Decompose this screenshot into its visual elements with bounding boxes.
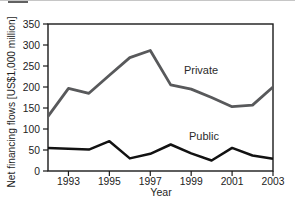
y-axis-tick-label: 100 [23,124,40,135]
y-axis-tick-label: 350 [23,19,40,30]
x-axis-tick-label: 2001 [221,176,244,187]
x-axis-title: Year [150,186,171,198]
y-axis-tick-label: 0 [34,166,40,177]
private-series-label: Private [184,64,218,76]
x-axis-tick-label: 1995 [98,176,121,187]
private-line [48,51,273,117]
y-axis-tick-label: 50 [29,145,41,156]
y-axis-tick-label: 250 [23,61,40,72]
y-axis-tick-label: 150 [23,103,40,114]
y-axis-tick-label: 300 [23,40,40,51]
y-axis-tick-label: 200 [23,82,40,93]
x-axis-tick-label: 2003 [262,176,285,187]
y-axis-title: Net financing flows [US$1,000 million] [6,16,17,187]
net-financing-flows-figure: 0501001502002503003501993199519971999200… [0,0,295,204]
public-series-label: Public [189,130,219,142]
public-line [48,141,273,160]
x-axis-tick-label: 1999 [180,176,203,187]
x-axis-tick-label: 1993 [57,176,80,187]
x-axis-tick-label: 1997 [139,176,162,187]
chart-canvas: 0501001502002503003501993199519971999200… [0,1,295,204]
